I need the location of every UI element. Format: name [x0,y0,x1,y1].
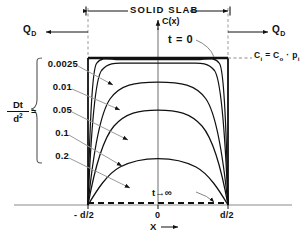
initial-time-label: t = 0 [168,34,193,45]
t-infinity-leader [196,192,214,202]
flux-right-subscript: D [280,30,285,37]
legend-value-4: 0.2 [10,151,69,161]
legend-value-3: 0.1 [10,128,69,138]
solid-slab-title: SOLID SLAB [130,5,199,15]
legend-value-2: 0.05 [10,105,72,115]
x-tick-label-center: 0 [155,211,160,220]
y-axis-label: C(x) [162,17,180,26]
legend-value-0: 0.0025 [10,59,78,69]
figure-canvas [0,0,305,239]
infinite-time-arrow: → [155,188,165,198]
infinite-time-symbol: ∞ [165,187,172,198]
diffusion-slab-figure: SOLID SLAB QD QD C(x) t = 0 Ci = Co · pi… [0,0,305,239]
flux-right-symbol: Q [272,24,280,35]
flux-left-symbol: Q [23,24,31,35]
multiply-dot: · [286,50,289,60]
x-tick-label-left: - d/2 [74,211,94,220]
x-tick-label-right: d/2 [220,211,234,220]
flux-left-subscript: D [31,30,36,37]
x-axis-label: X [150,222,156,232]
surface-concentration-label: Ci = Co · pi [254,51,300,62]
pi-subscript: i [298,55,300,62]
x-tick-marks [88,205,228,209]
legend-value-1: 0.01 [10,82,72,92]
ci-subscript: i [260,55,262,62]
infinite-time-label: t→∞ [152,188,171,198]
flux-right-label: QD [272,25,286,37]
flux-left-label: QD [23,25,37,37]
co-subscript: o [280,55,284,62]
ci-equals: = [265,50,270,60]
t-zero-leader [196,40,214,57]
